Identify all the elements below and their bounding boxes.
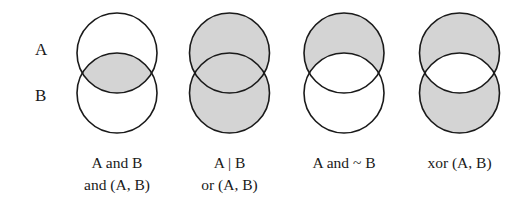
- caption-line: A and ~ B: [284, 152, 404, 174]
- caption-or: A | B or (A, B): [170, 152, 290, 196]
- caption-and-not: A and ~ B: [284, 152, 404, 174]
- venn-or: [190, 13, 270, 133]
- caption-line: A and B: [57, 152, 177, 174]
- caption-line: or (A, B): [170, 174, 290, 196]
- venn-and-not: [304, 13, 384, 133]
- caption-line: A | B: [170, 152, 290, 174]
- caption-and: A and B and (A, B): [57, 152, 177, 196]
- venn-and: [77, 13, 157, 133]
- row-label-b: B: [35, 87, 46, 104]
- caption-line: xor (A, B): [400, 152, 520, 174]
- caption-line: and (A, B): [57, 174, 177, 196]
- caption-xor: xor (A, B): [400, 152, 520, 174]
- row-label-a: A: [35, 41, 47, 58]
- venn-xor: [420, 13, 500, 133]
